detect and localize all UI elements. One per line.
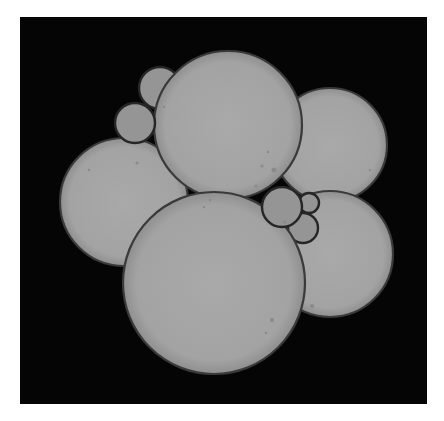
speck xyxy=(272,168,277,173)
speck xyxy=(270,318,274,322)
speck xyxy=(267,151,269,153)
cell-small-top-front xyxy=(115,103,155,143)
cell-group xyxy=(60,51,393,374)
speck xyxy=(209,199,212,202)
speck xyxy=(369,169,371,171)
cell-top-center xyxy=(154,51,302,199)
speck xyxy=(261,165,264,168)
speck xyxy=(265,332,267,334)
speck xyxy=(163,106,165,108)
cell-small-right-main xyxy=(262,187,302,227)
speck xyxy=(310,304,314,308)
speck xyxy=(136,162,139,165)
speck xyxy=(284,221,287,224)
speck xyxy=(203,206,205,208)
cell-cluster-image xyxy=(0,0,444,421)
speck xyxy=(255,185,258,188)
speck xyxy=(88,169,91,172)
